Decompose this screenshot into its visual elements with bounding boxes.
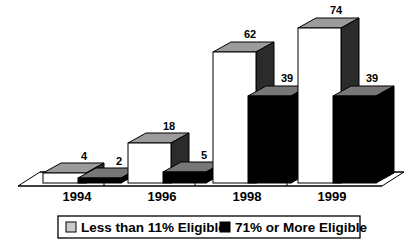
bar-group-1994: 4 2 1994 <box>43 150 139 204</box>
bar-group-1996: 18 5 1996 <box>128 120 224 204</box>
bar-front-face <box>78 178 121 183</box>
bar-value-label: 39 <box>366 72 378 84</box>
bar-front-face <box>163 172 206 183</box>
legend-swatch-light-icon <box>66 222 76 232</box>
bar-side-face <box>376 86 394 183</box>
bar-front-face <box>248 96 291 183</box>
bar-value-label: 2 <box>116 155 122 167</box>
bar-value-label: 74 <box>330 4 343 16</box>
chart-legend: Less than 11% Eligible 71% or More Eligi… <box>58 216 368 238</box>
legend-label-less-than-11: Less than 11% Eligible <box>81 220 226 235</box>
bar-value-label: 4 <box>81 150 88 162</box>
bar-value-label: 18 <box>163 120 175 132</box>
bar-front-face <box>333 96 376 183</box>
category-label-1994: 1994 <box>63 189 93 204</box>
bar-group-1999: 74 39 1999 <box>298 4 394 204</box>
legend-item-less-than-11[interactable]: Less than 11% Eligible <box>66 220 226 235</box>
bar-dark-1999[interactable] <box>333 86 394 183</box>
bar-value-label: 39 <box>281 72 293 84</box>
legend-swatch-dark-icon <box>220 222 230 232</box>
bar-value-label: 5 <box>201 149 207 161</box>
bar-group-1998: 62 39 1998 <box>213 28 309 204</box>
category-label-1999: 1999 <box>318 189 347 204</box>
legend-label-71-or-more: 71% or More Eligible <box>235 220 368 235</box>
legend-item-71-or-more[interactable]: 71% or More Eligible <box>220 220 368 235</box>
category-label-1996: 1996 <box>148 189 177 204</box>
chart-canvas: 4 2 1994 18 5 1996 <box>0 0 415 248</box>
bar-value-label: 62 <box>244 28 256 40</box>
bar-chart: 4 2 1994 18 5 1996 <box>0 0 415 248</box>
category-label-1998: 1998 <box>233 189 262 204</box>
